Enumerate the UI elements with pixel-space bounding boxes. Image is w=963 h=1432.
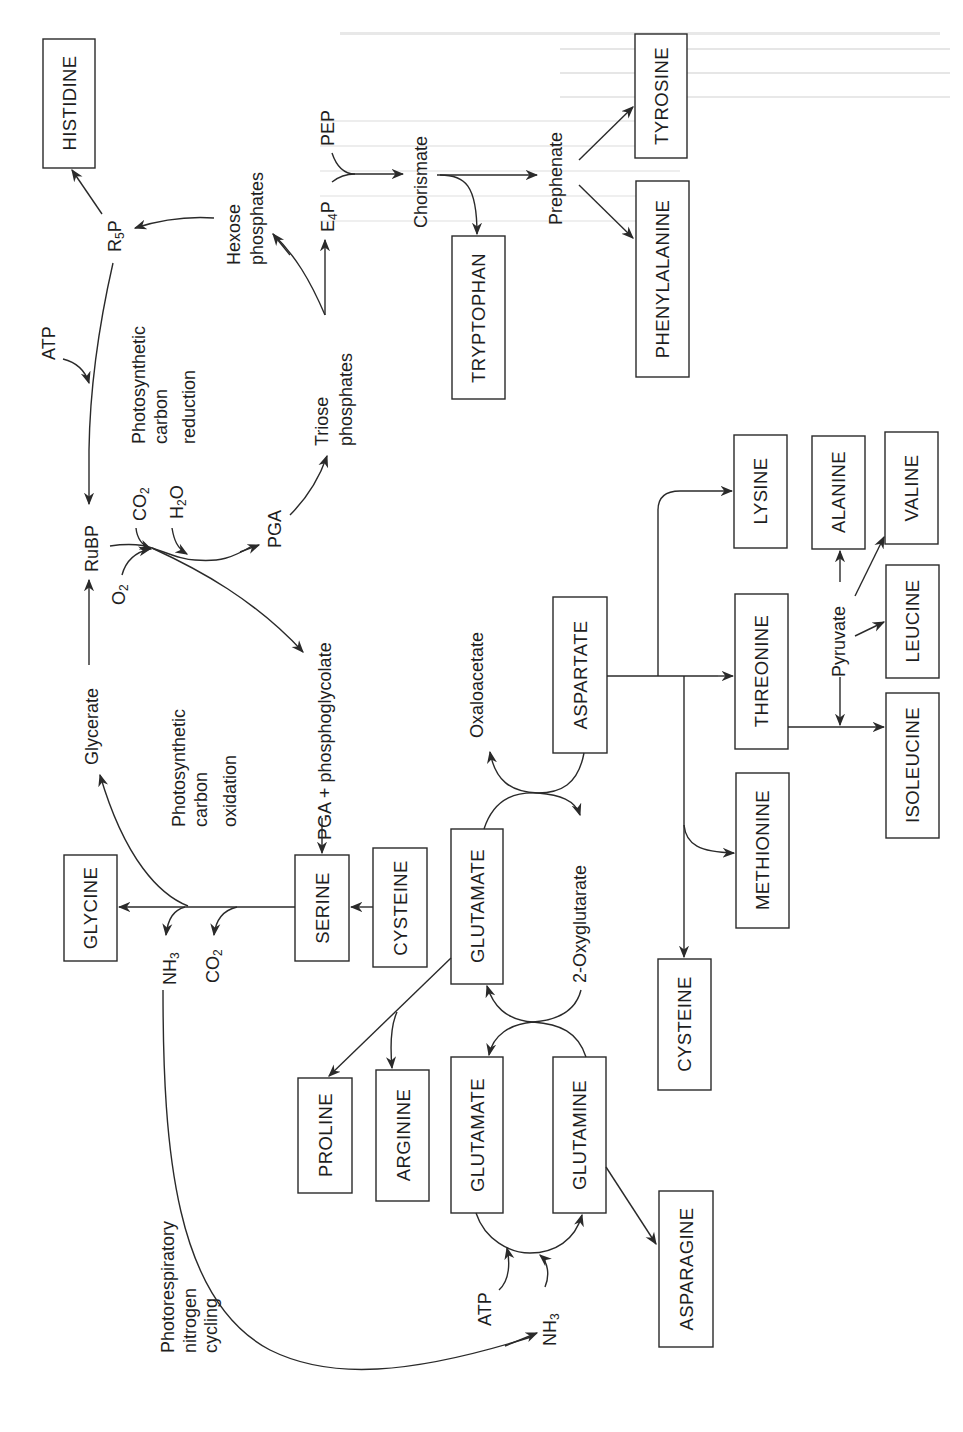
svg-text:reduction: reduction bbox=[179, 370, 199, 444]
label-prephenate: Prephenate bbox=[546, 132, 566, 225]
box-alanine: ALANINE bbox=[812, 436, 865, 549]
box-glycine: GLYCINE bbox=[64, 855, 117, 961]
label-triose-phosphates: Triose phosphates bbox=[312, 353, 356, 446]
label-pyruvate: Pyruvate bbox=[829, 606, 849, 677]
box-asparagine: ASPARAGINE bbox=[659, 1191, 713, 1347]
box-isoleucine: ISOLEUCINE bbox=[886, 693, 939, 838]
svg-text:LEUCINE: LEUCINE bbox=[902, 580, 923, 663]
svg-text:Pyruvate: Pyruvate bbox=[829, 606, 849, 677]
svg-text:PGA: PGA bbox=[265, 510, 285, 548]
box-lysine: LYSINE bbox=[734, 435, 787, 548]
label-o2: O2 bbox=[109, 584, 131, 605]
box-phenylalanine: PHENYLALANINE bbox=[636, 181, 689, 377]
box-aspartate: ASPARTATE bbox=[553, 597, 607, 753]
box-serine: SERINE bbox=[295, 855, 349, 961]
label-hexose-phosphates: Hexose phosphates bbox=[224, 172, 267, 265]
svg-text:O2: O2 bbox=[109, 584, 131, 605]
svg-text:H2O: H2O bbox=[167, 485, 189, 519]
box-leucine: LEUCINE bbox=[886, 565, 939, 678]
svg-text:HISTIDINE: HISTIDINE bbox=[59, 55, 80, 150]
svg-text:Chorismate: Chorismate bbox=[411, 136, 431, 228]
box-valine: VALINE bbox=[885, 432, 938, 544]
svg-text:oxidation: oxidation bbox=[220, 755, 240, 827]
svg-text:ATP: ATP bbox=[39, 326, 59, 360]
label-pep: PEP bbox=[318, 110, 338, 146]
svg-text:phosphates: phosphates bbox=[247, 172, 267, 265]
box-arginine: ARGININE bbox=[376, 1070, 429, 1201]
svg-text:RuBP: RuBP bbox=[82, 525, 102, 572]
label-co2-lower: CO2 bbox=[203, 949, 225, 983]
svg-text:2-Oxyglutarate: 2-Oxyglutarate bbox=[570, 865, 590, 983]
svg-text:GLYCINE: GLYCINE bbox=[80, 867, 101, 950]
label-pga: PGA bbox=[265, 510, 285, 548]
svg-text:ISOLEUCINE: ISOLEUCINE bbox=[902, 707, 923, 823]
svg-text:Prephenate: Prephenate bbox=[546, 132, 566, 225]
svg-text:nitrogen: nitrogen bbox=[180, 1288, 200, 1353]
svg-text:E4P: E4P bbox=[318, 201, 340, 232]
box-tyrosine: TYROSINE bbox=[635, 34, 687, 158]
svg-text:cycling: cycling bbox=[201, 1298, 221, 1353]
svg-text:PROLINE: PROLINE bbox=[315, 1093, 336, 1177]
box-tryptophan: TRYPTOPHAN bbox=[452, 236, 505, 399]
amino-acid-pathway-diagram: HISTIDINE TYROSINE PHENYLALANINE TRYPTOP… bbox=[0, 0, 963, 1432]
svg-text:ARGININE: ARGININE bbox=[393, 1089, 414, 1182]
label-rubp: RuBP bbox=[82, 525, 102, 572]
svg-text:GLUTAMINE: GLUTAMINE bbox=[569, 1080, 590, 1190]
label-pga-phosphoglycolate: PGA + phosphoglycolate bbox=[315, 642, 335, 840]
box-cysteine-serine: CYSTEINE bbox=[373, 848, 427, 967]
svg-text:R5P: R5P bbox=[105, 220, 127, 252]
label-atp-bottom: ATP bbox=[475, 1292, 495, 1326]
svg-text:ALANINE: ALANINE bbox=[828, 451, 849, 533]
box-threonine: THREONINE bbox=[735, 594, 788, 749]
svg-text:Glycerate: Glycerate bbox=[82, 688, 102, 765]
svg-text:CYSTEINE: CYSTEINE bbox=[390, 860, 411, 956]
label-carbon-oxidation: Photosynthetic carbon oxidation bbox=[169, 709, 240, 827]
svg-text:ATP: ATP bbox=[475, 1292, 495, 1326]
box-glutamate-upper: GLUTAMATE bbox=[451, 829, 503, 984]
label-nh3-upper: NH3 bbox=[160, 952, 182, 985]
svg-text:GLUTAMATE: GLUTAMATE bbox=[467, 849, 488, 963]
box-cysteine-aspartate: CYSTEINE bbox=[658, 959, 711, 1090]
svg-text:ASPARTATE: ASPARTATE bbox=[570, 620, 591, 729]
label-carbon-reduction: Photosynthetic carbon reduction bbox=[129, 326, 199, 444]
svg-text:THREONINE: THREONINE bbox=[751, 615, 772, 728]
svg-text:Photorespiratory: Photorespiratory bbox=[158, 1221, 178, 1353]
box-proline: PROLINE bbox=[298, 1078, 352, 1193]
svg-text:PEP: PEP bbox=[318, 110, 338, 146]
svg-text:phosphates: phosphates bbox=[336, 353, 356, 446]
label-atp-top: ATP bbox=[39, 326, 59, 360]
label-oxaloacetate: Oxaloacetate bbox=[467, 632, 487, 738]
label-glycerate: Glycerate bbox=[82, 688, 102, 765]
box-glutamate-lower: GLUTAMATE bbox=[451, 1057, 503, 1213]
svg-text:Photosynthetic: Photosynthetic bbox=[169, 709, 189, 827]
label-h2o: H2O bbox=[167, 485, 189, 519]
box-methionine: METHIONINE bbox=[736, 773, 789, 928]
svg-text:CYSTEINE: CYSTEINE bbox=[674, 976, 695, 1072]
label-r5p: R5P bbox=[105, 220, 127, 252]
svg-text:METHIONINE: METHIONINE bbox=[752, 790, 773, 910]
box-histidine: HISTIDINE bbox=[43, 39, 95, 168]
svg-text:PHENYLALANINE: PHENYLALANINE bbox=[652, 200, 673, 358]
svg-text:GLUTAMATE: GLUTAMATE bbox=[467, 1078, 488, 1192]
label-e4p: E4P bbox=[318, 201, 340, 232]
svg-text:VALINE: VALINE bbox=[901, 455, 922, 522]
svg-text:TRYPTOPHAN: TRYPTOPHAN bbox=[468, 253, 489, 383]
svg-text:NH3: NH3 bbox=[540, 1313, 562, 1346]
svg-text:LYSINE: LYSINE bbox=[750, 458, 771, 525]
svg-text:carbon: carbon bbox=[191, 772, 211, 827]
svg-text:SERINE: SERINE bbox=[312, 872, 333, 943]
svg-text:Triose: Triose bbox=[312, 397, 332, 446]
box-glutamine: GLUTAMINE bbox=[553, 1057, 606, 1213]
svg-text:Oxaloacetate: Oxaloacetate bbox=[467, 632, 487, 738]
label-chorismate: Chorismate bbox=[411, 136, 431, 228]
svg-text:CO2: CO2 bbox=[203, 949, 225, 983]
svg-text:carbon: carbon bbox=[151, 389, 171, 444]
svg-text:PGA + phosphoglycolate: PGA + phosphoglycolate bbox=[315, 642, 335, 840]
label-co2-top: CO2 bbox=[130, 487, 152, 521]
svg-text:NH3: NH3 bbox=[160, 952, 182, 985]
svg-text:Photosynthetic: Photosynthetic bbox=[129, 326, 149, 444]
svg-text:CO2: CO2 bbox=[130, 487, 152, 521]
svg-text:TYROSINE: TYROSINE bbox=[651, 47, 672, 145]
label-nh3-bottom: NH3 bbox=[540, 1313, 562, 1346]
svg-text:ASPARAGINE: ASPARAGINE bbox=[676, 1208, 697, 1331]
